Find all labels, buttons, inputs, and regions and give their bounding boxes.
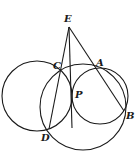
left-circle (2, 61, 72, 131)
label-C: C (53, 60, 61, 71)
line-E-D (49, 27, 69, 129)
label-A: A (95, 57, 104, 68)
label-D: D (40, 132, 50, 143)
geometry-diagram: E C A P B D (0, 0, 138, 153)
label-E: E (63, 13, 72, 24)
label-B: B (125, 110, 134, 121)
line-E-P-vertical (69, 27, 72, 128)
label-P: P (74, 89, 83, 100)
